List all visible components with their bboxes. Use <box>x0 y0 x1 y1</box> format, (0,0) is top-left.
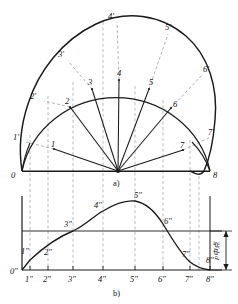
xtick-label-2: 2" <box>43 274 51 284</box>
label-inner-5: 5 <box>149 77 153 87</box>
dim-arrow-down <box>223 264 228 270</box>
xtick-label-8: 8" <box>206 274 214 284</box>
diagram-b: 0" 1" 2" 3" 4" 5" 6" 7" 8" 1" 2" 3" 4" 5… <box>10 190 232 298</box>
label-inner-3: 3 <box>87 77 92 87</box>
label-outer-3prime: 3' <box>57 49 64 59</box>
inner-radial-spokes <box>22 80 210 171</box>
xtick-label-5: 5" <box>130 274 138 284</box>
curve-label-5: 5" <box>134 190 142 200</box>
label-inner-2: 2 <box>65 96 70 106</box>
dimension-label: P中点 <box>213 241 221 261</box>
marker-4 <box>118 79 120 81</box>
label-outer-1prime: 1' <box>13 132 19 142</box>
spoke-2 <box>70 107 118 171</box>
label-origin-b: 0" <box>10 266 18 276</box>
marker-2 <box>69 106 71 108</box>
xtick-label-7: 7" <box>185 274 193 284</box>
marker-6 <box>170 107 172 109</box>
xtick-label-4: 4" <box>98 274 106 284</box>
label-inner-6: 6 <box>173 99 178 109</box>
label-baseline-8: 8 <box>213 170 218 180</box>
dim-arrow-up <box>223 231 228 237</box>
displacement-curve <box>22 201 210 270</box>
xtick-label-1: 1" <box>25 274 33 284</box>
label-outer-5prime: 5' <box>165 22 171 32</box>
marker-3 <box>91 88 93 90</box>
xtick-label-3: 3" <box>67 274 76 284</box>
spoke-3 <box>92 89 118 171</box>
technical-figure: 1 2 3 4 5 6 7 1' 2' 3' 4' 5' 6' 7' 0 8 a… <box>0 0 238 304</box>
inner-base-arc <box>22 98 210 171</box>
label-inner-4: 4 <box>117 68 122 78</box>
label-outer-6prime: 6' <box>203 64 209 74</box>
curve-label-7: 7" <box>182 249 190 259</box>
curve-label-6: 6" <box>164 216 172 226</box>
spoke-7 <box>118 150 183 171</box>
spoke-4 <box>118 80 119 171</box>
curve-label-4: 4" <box>94 200 102 210</box>
spoke-1 <box>54 149 118 171</box>
curve-label-1: 1" <box>21 246 29 256</box>
projection-lines <box>30 22 199 270</box>
caption-b: b) <box>113 288 120 298</box>
marker-5 <box>148 88 150 90</box>
label-outer-4prime: 4' <box>108 11 114 21</box>
xtick-label-6: 6" <box>158 274 166 284</box>
label-outer-2prime: 2' <box>30 91 36 101</box>
caption-a: a) <box>113 178 120 188</box>
label-outer-7prime: 7' <box>208 127 214 137</box>
label-inner-1: 1 <box>51 139 55 149</box>
label-inner-7: 7 <box>180 140 185 150</box>
curve-label-2: 2" <box>44 247 52 257</box>
label-baseline-0: 0 <box>11 170 16 180</box>
curve-label-3: 3" <box>63 219 72 229</box>
